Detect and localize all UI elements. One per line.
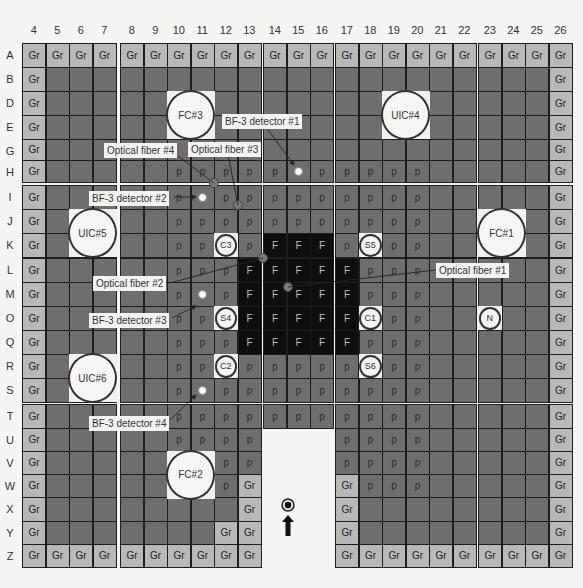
grid-cell-K22: [453, 233, 477, 258]
column-label: 7: [94, 23, 114, 37]
grid-cell-J13: p: [238, 209, 262, 234]
grid-cell-M25: [525, 282, 549, 307]
grid-cell-O17: F: [335, 306, 359, 331]
grid-cell-A22: Gr: [453, 43, 477, 68]
fc-2-chamber: FC#2: [166, 450, 215, 500]
fc-3-chamber: FC#3: [166, 90, 215, 140]
grid-cell-T14: p: [263, 404, 287, 429]
grid-cell-B10: [167, 67, 191, 92]
grid-cell-Y13: Gr: [238, 521, 262, 546]
grid-cell-H24: [502, 160, 526, 183]
grid-cell-W22: [453, 474, 477, 499]
grid-cell-I19: p: [382, 185, 406, 210]
grid-cell-V17: p: [335, 451, 359, 476]
grid-cell-R24: [502, 354, 526, 379]
column-label: 11: [192, 23, 212, 37]
grid-cell-M16: F: [310, 282, 334, 307]
grid-cell-L17: F: [335, 258, 359, 283]
grid-cell-T19: p: [382, 404, 406, 429]
grid-cell-T20: p: [406, 404, 430, 429]
grid-cell-Q9: [144, 330, 168, 355]
grid-cell-T5: [46, 404, 70, 429]
grid-cell-J11: p: [191, 209, 215, 234]
grid-cell-G4: Gr: [22, 139, 46, 161]
grid-cell-I5: [46, 185, 70, 210]
grid-cell-Y26: Gr: [549, 521, 573, 546]
grid-cell-S15: p: [287, 378, 311, 403]
grid-cell-Q11: p: [191, 330, 215, 355]
callout-bf4: BF-3 detector #4: [89, 416, 169, 431]
grid-cell-J14: p: [263, 209, 287, 234]
column-label: 22: [454, 23, 474, 37]
grid-cell-E21: [429, 115, 453, 140]
grid-cell-Z4: Gr: [22, 544, 46, 569]
grid-cell-S25: [525, 378, 549, 403]
grid-cell-Z8: Gr: [120, 544, 144, 569]
grid-cell-R5: [46, 354, 70, 379]
reactor-core-map: 4567891011121314151617181920212223242526…: [0, 0, 583, 588]
grid-cell-U17: p: [335, 428, 359, 453]
grid-cell-X9: [144, 497, 168, 522]
grid-cell-T16: p: [310, 404, 334, 429]
grid-cell-S22: [453, 378, 477, 403]
column-label: 26: [550, 23, 570, 37]
grid-cell-X18: [359, 497, 383, 522]
s4-element: S4: [215, 307, 238, 330]
row-label: K: [0, 238, 20, 252]
grid-cell-S8: [120, 378, 144, 403]
grid-cell-Y10: [167, 521, 191, 546]
grid-cell-S10: p: [167, 378, 191, 403]
grid-cell-Y22: [453, 521, 477, 546]
grid-cell-W26: Gr: [549, 474, 573, 499]
grid-cell-O24: [502, 306, 526, 331]
neutron-source-icon: [281, 498, 297, 538]
row-label: T: [0, 409, 20, 423]
grid-cell-L25: [525, 258, 549, 283]
grid-cell-U11: p: [191, 428, 215, 453]
grid-cell-D18: [359, 91, 383, 116]
optical-fiber-2-icon: [258, 253, 268, 263]
row-label: V: [0, 456, 20, 470]
grid-cell-A12: Gr: [214, 43, 238, 68]
grid-cell-A6: Gr: [69, 43, 93, 68]
grid-cell-M26: Gr: [549, 282, 573, 307]
grid-cell-O25: [525, 306, 549, 331]
grid-cell-S13: p: [238, 378, 262, 403]
grid-cell-R15: p: [287, 354, 311, 379]
grid-cell-E26: Gr: [549, 115, 573, 140]
grid-cell-S24: [502, 378, 526, 403]
grid-cell-X25: [525, 497, 549, 522]
s6-element: S6: [359, 355, 382, 378]
grid-cell-U23: [478, 428, 502, 453]
grid-cell-W8: [120, 474, 144, 499]
row-label: Q: [0, 335, 20, 349]
source-detector-marker: [281, 498, 297, 542]
grid-cell-I14: p: [263, 185, 287, 210]
grid-cell-E8: [120, 115, 144, 140]
grid-cell-J4: Gr: [22, 209, 46, 234]
column-label: 23: [480, 23, 500, 37]
grid-cell-T21: [429, 404, 453, 429]
grid-cell-G16: [310, 139, 334, 161]
grid-cell-H21: [429, 160, 453, 183]
grid-cell-G20: [406, 139, 430, 161]
grid-cell-B8: [120, 67, 144, 92]
grid-cell-X5: [46, 497, 70, 522]
column-label: 16: [312, 23, 332, 37]
grid-cell-B15: [287, 67, 311, 92]
grid-cell-Q14: F: [263, 330, 287, 355]
grid-cell-M21: [429, 282, 453, 307]
grid-cell-A15: Gr: [287, 43, 311, 68]
grid-cell-S5: [46, 378, 70, 403]
grid-cell-Q4: Gr: [22, 330, 46, 355]
grid-cell-V26: Gr: [549, 451, 573, 476]
n-element: N: [479, 307, 502, 330]
grid-cell-M20: p: [406, 282, 430, 307]
grid-cell-L15: F: [287, 258, 311, 283]
grid-cell-S17: p: [335, 378, 359, 403]
grid-cell-W6: [69, 474, 93, 499]
grid-cell-X26: Gr: [549, 497, 573, 522]
grid-cell-W18: p: [359, 474, 383, 499]
grid-cell-J8: [120, 209, 144, 234]
grid-cell-I18: p: [359, 185, 383, 210]
